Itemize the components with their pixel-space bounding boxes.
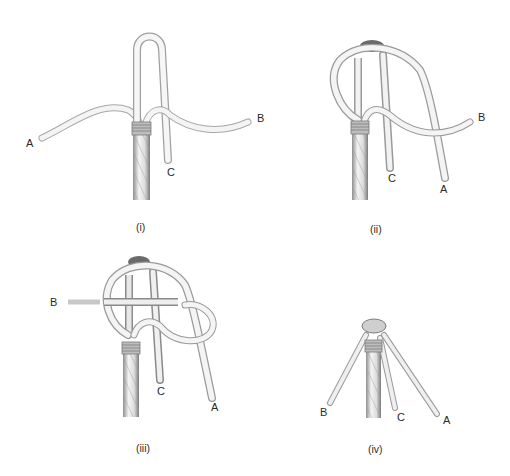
panel-iv-drawing xyxy=(330,319,437,418)
panel-iv-label-b: B xyxy=(320,407,327,418)
panel-iv-caption: (iv) xyxy=(368,444,383,455)
panel-i-drawing xyxy=(42,37,248,201)
panel-iii-label-c: C xyxy=(157,386,165,397)
panel-iii-drawing xyxy=(68,256,213,417)
panel-ii-caption: (ii) xyxy=(370,224,382,235)
panel-i-caption: (i) xyxy=(136,222,145,233)
panel-ii-drawing xyxy=(334,40,470,200)
knot-illustration xyxy=(0,0,510,476)
knot-diagram: A B C (i) B C A (ii) B C A (iii) B C A (… xyxy=(0,0,510,476)
panel-ii-label-a: A xyxy=(440,184,447,195)
panel-iii-label-a: A xyxy=(211,402,218,413)
panel-ii-label-c: C xyxy=(388,173,396,184)
panel-i-label-c: C xyxy=(167,167,175,178)
panel-ii-label-b: B xyxy=(478,112,485,123)
panel-iv-label-c: C xyxy=(397,412,405,423)
panel-iii-caption: (iii) xyxy=(136,443,150,454)
panel-i-label-a: A xyxy=(26,138,33,149)
panel-iv-label-a: A xyxy=(443,415,450,426)
panel-i-label-b: B xyxy=(257,113,264,124)
panel-iii-label-b: B xyxy=(50,297,57,308)
